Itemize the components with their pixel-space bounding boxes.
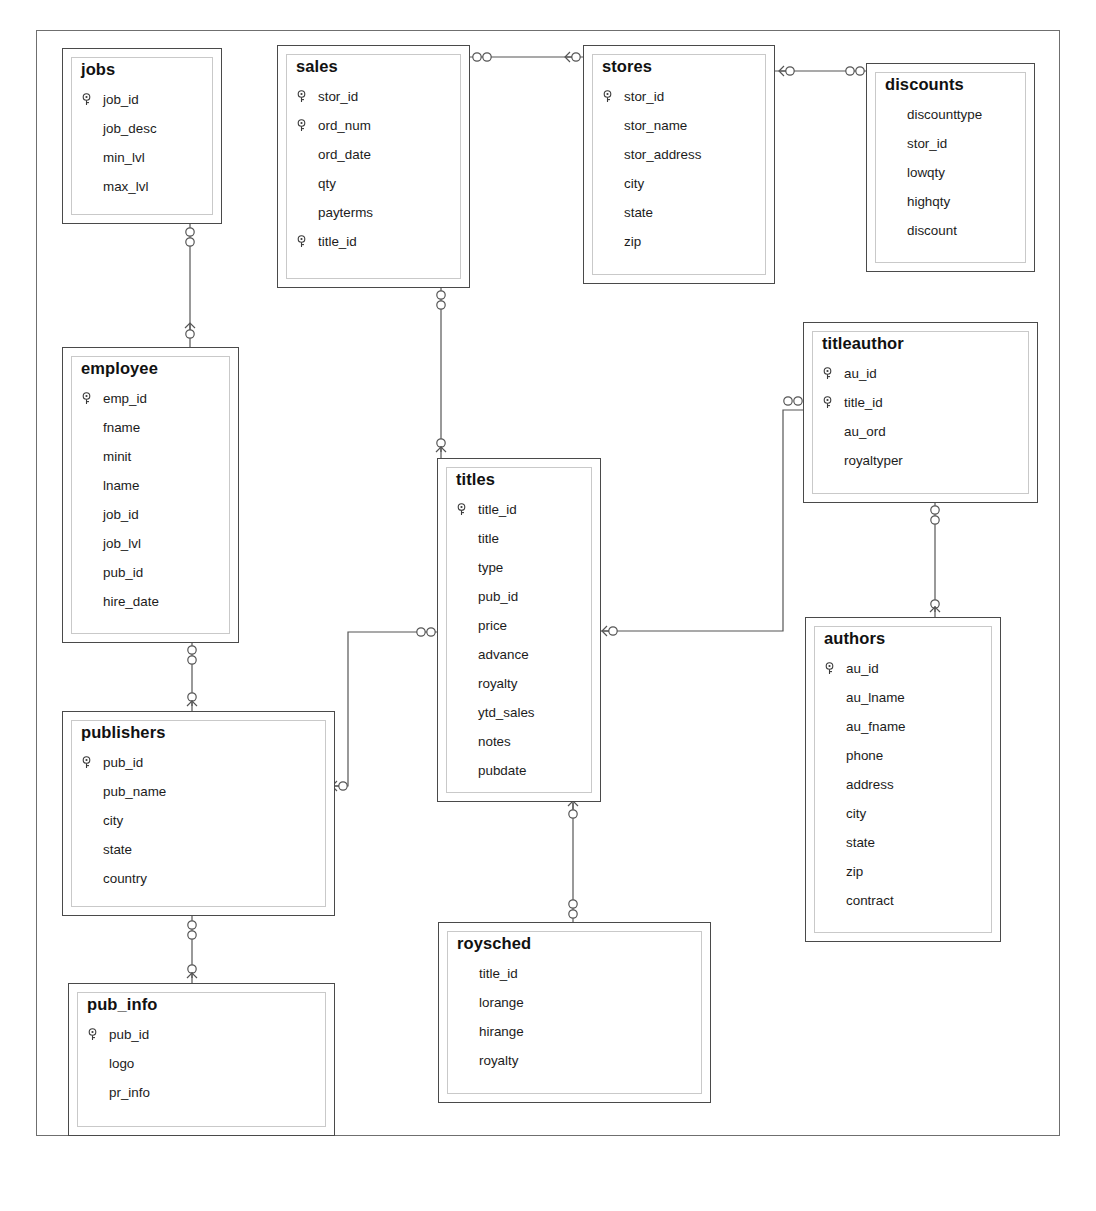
field-name: pub_id [103,756,143,769]
field-row[interactable]: min_lvl [63,143,221,172]
field-row[interactable]: state [63,835,334,864]
field-row[interactable]: stor_id [867,129,1034,158]
field-row[interactable]: discount [867,216,1034,245]
field-name: stor_name [624,119,687,132]
field-name: max_lvl [103,180,148,193]
field-row[interactable]: country [63,864,334,893]
field-list-employee: emp_idfnameminitlnamejob_idjob_lvlpub_id… [63,382,238,616]
field-row[interactable]: lname [63,471,238,500]
field-name: address [846,778,894,791]
field-name: highqty [907,195,950,208]
field-row[interactable]: zip [584,227,774,256]
entity-roysched[interactable]: royschedtitle_idlorangehirangeroyalty [438,922,711,1103]
entity-employee[interactable]: employeeemp_idfnameminitlnamejob_idjob_l… [62,347,239,643]
field-row[interactable]: pub_name [63,777,334,806]
field-name: price [478,619,507,632]
field-list-sales: stor_idord_numord_dateqtypaytermstitle_i… [278,80,469,256]
field-row[interactable]: royaltyper [804,446,1037,475]
field-row[interactable]: job_id [63,85,221,114]
field-row[interactable]: au_id [804,359,1037,388]
field-row[interactable]: pubdate [438,756,600,785]
entity-title-jobs: jobs [63,49,221,83]
field-row[interactable]: royalty [439,1046,710,1075]
field-row[interactable]: city [63,806,334,835]
field-row[interactable]: job_desc [63,114,221,143]
field-name: contract [846,894,894,907]
field-row[interactable]: hirange [439,1017,710,1046]
field-name: royalty [479,1054,518,1067]
field-row[interactable]: title_id [278,227,469,256]
entity-jobs[interactable]: jobsjob_idjob_descmin_lvlmax_lvl [62,48,222,224]
field-row[interactable]: fname [63,413,238,442]
field-row[interactable]: address [806,770,1000,799]
field-row[interactable]: payterms [278,198,469,227]
entity-title-pub_info: pub_info [69,984,334,1018]
field-row[interactable]: job_lvl [63,529,238,558]
entity-pub_info[interactable]: pub_infopub_idlogopr_info [68,983,335,1136]
field-row[interactable]: max_lvl [63,172,221,201]
entity-authors[interactable]: authorsau_idau_lnameau_fnamephoneaddress… [805,617,1001,942]
field-row[interactable]: advance [438,640,600,669]
field-row[interactable]: stor_id [584,82,774,111]
field-row[interactable]: state [584,198,774,227]
field-row[interactable]: stor_address [584,140,774,169]
field-name: logo [109,1057,134,1070]
field-row[interactable]: pub_id [63,748,334,777]
field-row[interactable]: type [438,553,600,582]
field-row[interactable]: title [438,524,600,553]
field-row[interactable]: au_lname [806,683,1000,712]
field-name: fname [103,421,140,434]
field-row[interactable]: highqty [867,187,1034,216]
field-row[interactable]: city [806,799,1000,828]
field-row[interactable]: stor_name [584,111,774,140]
field-row[interactable]: ord_date [278,140,469,169]
field-row[interactable]: title_id [439,959,710,988]
field-row[interactable]: title_id [438,495,600,524]
primary-key-icon [456,503,478,516]
entity-stores[interactable]: storesstor_idstor_namestor_addresscityst… [583,45,775,284]
entity-publishers[interactable]: publisherspub_idpub_namecitystatecountry [62,711,335,916]
field-row[interactable]: emp_id [63,384,238,413]
field-name: au_lname [846,691,905,704]
field-name: pub_id [109,1028,149,1041]
entity-titleauthor[interactable]: titleauthorau_idtitle_idau_ordroyaltyper [803,322,1038,503]
field-name: hirange [479,1025,524,1038]
field-row[interactable]: ytd_sales [438,698,600,727]
field-row[interactable]: contract [806,886,1000,915]
field-row[interactable]: au_id [806,654,1000,683]
field-row[interactable]: ord_num [278,111,469,140]
field-row[interactable]: hire_date [63,587,238,616]
field-row[interactable]: au_fname [806,712,1000,741]
field-row[interactable]: pub_id [63,558,238,587]
field-row[interactable]: title_id [804,388,1037,417]
field-row[interactable]: pub_id [69,1020,334,1049]
field-row[interactable]: lowqty [867,158,1034,187]
field-row[interactable]: pub_id [438,582,600,611]
field-row[interactable]: notes [438,727,600,756]
field-row[interactable]: lorange [439,988,710,1017]
field-row[interactable]: price [438,611,600,640]
field-row[interactable]: stor_id [278,82,469,111]
field-row[interactable]: phone [806,741,1000,770]
entity-titles[interactable]: titlestitle_idtitletypepub_idpriceadvanc… [437,458,601,802]
field-row[interactable]: zip [806,857,1000,886]
field-row[interactable]: royalty [438,669,600,698]
entity-sales[interactable]: salesstor_idord_numord_dateqtypaytermsti… [277,45,470,288]
field-row[interactable]: job_id [63,500,238,529]
field-list-titles: title_idtitletypepub_idpriceadvanceroyal… [438,493,600,785]
field-row[interactable]: pr_info [69,1078,334,1107]
field-row[interactable]: minit [63,442,238,471]
field-name: phone [846,749,883,762]
field-row[interactable]: discounttype [867,100,1034,129]
field-name: title_id [479,967,518,980]
field-row[interactable]: state [806,828,1000,857]
field-list-roysched: title_idlorangehirangeroyalty [439,957,710,1075]
field-row[interactable]: au_ord [804,417,1037,446]
field-row[interactable]: qty [278,169,469,198]
field-name: minit [103,450,131,463]
field-row[interactable]: city [584,169,774,198]
entity-discounts[interactable]: discountsdiscounttypestor_idlowqtyhighqt… [866,63,1035,272]
field-name: state [846,836,875,849]
field-name: pub_name [103,785,166,798]
field-row[interactable]: logo [69,1049,334,1078]
